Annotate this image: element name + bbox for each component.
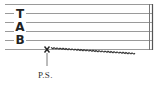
tab-clef-letter-t: T	[14, 8, 26, 20]
wavy-slide-line	[51, 48, 135, 55]
string-lines	[5, 5, 153, 50]
tab-staff-diagram: T A B P.S.	[0, 0, 160, 86]
technique-label: P.S.	[38, 70, 53, 80]
tab-clef-letter-b: B	[14, 34, 26, 46]
double-barline	[150, 4, 153, 50]
tab-clef-letter-a: A	[14, 21, 26, 33]
